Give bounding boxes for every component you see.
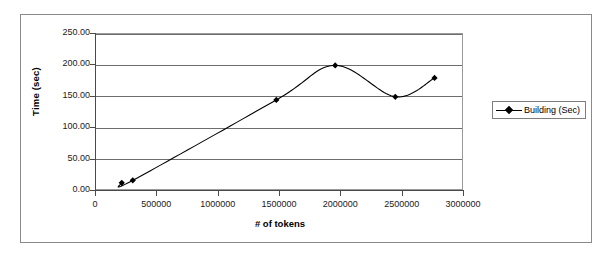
series-markers	[119, 62, 438, 186]
x-tick-mark	[340, 191, 341, 196]
data-point-marker	[273, 97, 279, 103]
y-tick-mark	[90, 127, 95, 128]
series-building-sec	[96, 34, 464, 191]
x-tick-label: 3000000	[423, 199, 503, 209]
y-tick-label: 150.00	[34, 91, 90, 100]
x-tick-mark	[156, 191, 157, 196]
y-axis-title: Time (sec)	[30, 52, 41, 132]
data-point-marker	[332, 62, 338, 68]
y-tick-label: 0.00	[34, 185, 90, 194]
x-axis-title: # of tokens	[140, 218, 420, 229]
chart-container: 0.0050.00100.00150.00200.00250.00 050000…	[0, 0, 614, 254]
y-tick-label: 200.00	[34, 59, 90, 68]
data-point-marker	[130, 177, 136, 183]
y-tick-mark	[90, 96, 95, 97]
data-point-marker	[431, 75, 437, 81]
data-point-marker	[392, 94, 398, 100]
legend-label-building-sec: Building (Sec)	[524, 105, 580, 115]
y-axis-line	[95, 33, 96, 191]
x-tick-mark	[279, 191, 280, 196]
y-tick-mark	[90, 159, 95, 160]
y-tick-mark	[90, 64, 95, 65]
plot-area	[95, 33, 463, 190]
y-tick-label: 50.00	[34, 154, 90, 163]
x-tick-mark	[95, 191, 96, 196]
x-tick-mark	[402, 191, 403, 196]
series-line	[118, 65, 434, 187]
y-tick-mark	[90, 33, 95, 34]
x-tick-mark	[218, 191, 219, 196]
chart-legend: Building (Sec)	[492, 101, 586, 119]
y-tick-label: 100.00	[34, 122, 90, 131]
legend-swatch-building-sec	[496, 106, 522, 115]
y-tick-label: 250.00	[34, 28, 90, 37]
x-tick-mark	[463, 191, 464, 196]
